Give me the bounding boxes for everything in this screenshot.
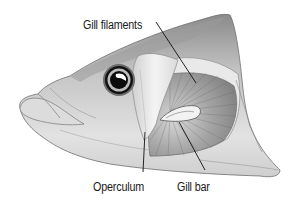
fish-gill-diagram: Gill filaments Operculum Gill bar: [0, 0, 293, 199]
fish-head-illustration: [0, 0, 293, 199]
label-gill-filaments: Gill filaments: [83, 18, 142, 32]
label-operculum: Operculum: [93, 180, 144, 194]
eye: [103, 64, 135, 96]
label-gill-bar: Gill bar: [177, 180, 210, 194]
